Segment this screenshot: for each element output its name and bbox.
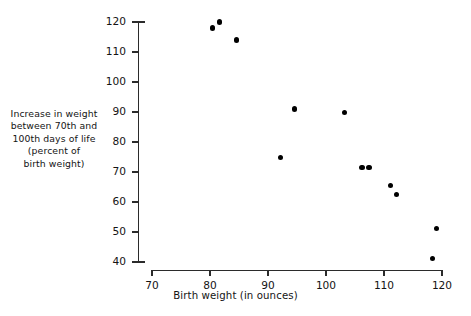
y-axis-tick <box>132 111 138 112</box>
x-axis-tick <box>325 270 326 276</box>
y-axis-tick <box>132 261 138 262</box>
y-axis-tick-label: 120 <box>100 15 126 27</box>
data-point <box>234 37 239 42</box>
x-axis-label: Birth weight (in ounces) <box>0 290 471 301</box>
data-point <box>210 25 215 30</box>
x-axis-tick <box>441 270 442 276</box>
data-point <box>430 256 435 261</box>
data-point <box>366 165 371 170</box>
y-axis-spine <box>138 21 139 262</box>
data-point <box>278 155 283 160</box>
data-point <box>394 192 399 197</box>
y-axis-tick-label: 90 <box>100 105 126 117</box>
x-axis-tick <box>209 270 210 276</box>
y-axis-tick-label: 100 <box>100 75 126 87</box>
y-axis-tick-label: 110 <box>100 45 126 57</box>
data-point <box>292 106 297 111</box>
y-axis-tick-label: 60 <box>100 195 126 207</box>
y-axis-tick-label: 80 <box>100 135 126 147</box>
data-point <box>388 183 393 188</box>
data-point <box>359 165 364 170</box>
x-axis-tick <box>267 270 268 276</box>
y-axis-tick-label: 40 <box>100 255 126 267</box>
data-point <box>434 226 439 231</box>
scatter-plot-area: 405060708090100110120708090100110120 <box>0 0 471 316</box>
y-axis-tick-label: 50 <box>100 225 126 237</box>
y-axis-bottom-cap <box>138 261 145 262</box>
y-axis-tick <box>132 141 138 142</box>
data-point <box>217 19 222 24</box>
x-axis-spine <box>152 270 442 271</box>
x-axis-tick <box>151 270 152 276</box>
y-axis-top-cap <box>138 21 145 22</box>
y-axis-tick <box>132 81 138 82</box>
y-axis-tick <box>132 231 138 232</box>
y-axis-tick <box>132 171 138 172</box>
y-axis-tick <box>132 51 138 52</box>
data-point <box>342 110 347 115</box>
y-axis-tick-label: 70 <box>100 165 126 177</box>
x-axis-tick <box>383 270 384 276</box>
chart-page: Increase in weight between 70th and 100t… <box>0 0 471 316</box>
y-axis-tick <box>132 201 138 202</box>
